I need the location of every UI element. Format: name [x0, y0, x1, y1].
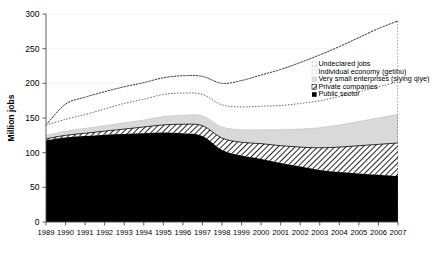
y-tick-label: 200 — [25, 78, 39, 88]
x-tick-label: 2004 — [331, 228, 348, 237]
y-tick-label: 0 — [35, 217, 40, 227]
x-tick-label: 1994 — [135, 228, 152, 237]
x-tick-label: 1991 — [77, 228, 94, 237]
black-swatch-icon — [312, 92, 317, 97]
x-tick-label: 1997 — [194, 228, 211, 237]
x-tick-label: 1996 — [174, 228, 191, 237]
white-swatch-icon — [312, 69, 317, 74]
y-axis-label: Million jobs — [6, 94, 16, 141]
y-tick-label: 100 — [25, 148, 39, 158]
x-tick-label: 2001 — [272, 228, 289, 237]
chart-container: 050100150200250300 198919901991199219931… — [0, 0, 443, 256]
dotted-outline-swatch-icon — [312, 62, 317, 67]
y-tick-label: 150 — [25, 113, 39, 123]
x-tick-label: 1993 — [116, 228, 133, 237]
y-tick-label: 300 — [25, 9, 39, 19]
y-tick-label: 250 — [25, 44, 39, 54]
legend-label: Public sector — [318, 89, 360, 98]
x-tick-label: 1992 — [96, 228, 113, 237]
x-tick-label: 2002 — [292, 228, 309, 237]
hatched-swatch-icon — [312, 85, 317, 90]
x-tick-label: 1990 — [57, 228, 74, 237]
x-tick-label: 2006 — [370, 228, 387, 237]
x-tick-label: 2000 — [253, 228, 270, 237]
y-tick-label: 50 — [30, 182, 40, 192]
x-tick-label: 1998 — [214, 228, 231, 237]
x-tick-label: 2005 — [350, 228, 367, 237]
legend-item: Public sector — [312, 89, 360, 98]
x-tick-label: 1989 — [38, 228, 55, 237]
x-tick-label: 2007 — [390, 228, 407, 237]
stacked-area-chart: 050100150200250300 198919901991199219931… — [0, 0, 443, 256]
x-tick-label: 1995 — [155, 228, 172, 237]
x-tick-label: 1999 — [233, 228, 250, 237]
x-tick-label: 2003 — [311, 228, 328, 237]
light-gray-swatch-icon — [312, 77, 317, 82]
